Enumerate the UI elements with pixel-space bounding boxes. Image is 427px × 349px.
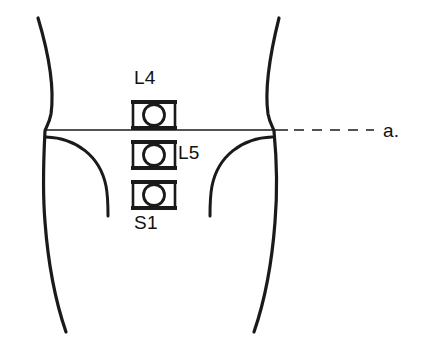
vertebra-label-l4: L4 — [134, 68, 156, 87]
anatomy-figure: L4 L5 S1 a. — [0, 0, 427, 349]
vertebra-s1 — [131, 182, 177, 208]
right-torso-outline — [254, 18, 279, 332]
left-iliac-crest — [46, 137, 108, 216]
anatomy-diagram-svg — [0, 0, 427, 349]
reference-line-label: a. — [383, 121, 399, 140]
left-torso-outline — [38, 18, 66, 332]
vertebra-l5 — [131, 142, 177, 168]
right-iliac-crest — [210, 137, 272, 216]
vertebra-label-l5: L5 — [178, 143, 200, 162]
vertebra-label-s1: S1 — [134, 213, 158, 232]
vertebra-l4 — [131, 102, 177, 128]
